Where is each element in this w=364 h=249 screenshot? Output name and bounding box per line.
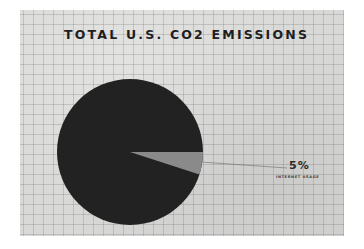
pie-chart [0,0,364,249]
annotation-label: INTERNET USAGE [276,175,319,179]
pie-slices [57,79,203,225]
annotation-leader-line [201,162,287,168]
annotation-percent: 5% [289,159,310,172]
